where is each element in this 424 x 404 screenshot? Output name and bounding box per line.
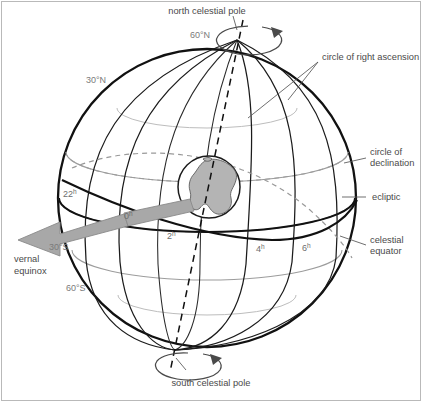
vernal-equinox-label-line2: equinox — [14, 266, 47, 276]
vernal-equinox-label-line1: vernal — [14, 254, 39, 264]
celestial-sphere-diagram: north celestial pole south celestial pol… — [0, 0, 424, 404]
south-celestial-pole-label: south celestial pole — [171, 378, 250, 388]
north-celestial-pole-label: north celestial pole — [168, 6, 246, 16]
circle-of-declination-label-line2: declination — [370, 158, 414, 168]
declination-label-60s: 60°S — [66, 283, 86, 293]
circle-of-declination-label-line1: circle of — [370, 147, 402, 157]
declination-label-30s: 30°S — [49, 242, 69, 252]
rotation-direction-arrow-north — [217, 26, 283, 55]
celestial-equator-label-line1: celestial — [370, 235, 404, 245]
ecliptic-label: ecliptic — [372, 192, 401, 202]
celestial-sphere-figure: north celestial pole south celestial pol… — [0, 0, 424, 404]
rotation-direction-arrow-south — [156, 353, 222, 380]
circle-of-right-ascension-label: circle of right ascension — [322, 52, 419, 62]
declination-label-30n: 30°N — [86, 75, 106, 85]
declination-label-60n: 60°N — [190, 30, 210, 40]
celestial-equator-label-line2: equator — [370, 246, 402, 256]
